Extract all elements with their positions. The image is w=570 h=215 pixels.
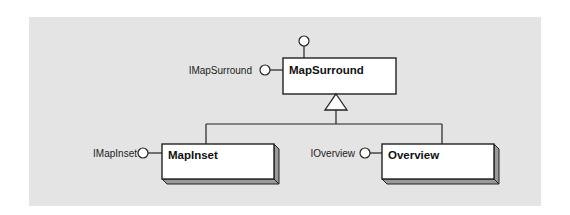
overview-box-bottom-shadow (382, 179, 499, 184)
imapinset-interface-icon (138, 148, 148, 158)
mapinset-box-bottom-shadow (162, 179, 279, 184)
imapsurround-label: IMapSurround (189, 65, 252, 76)
overview-box-side-shadow (494, 144, 499, 184)
mapinset-box-side-shadow (274, 144, 279, 184)
mapsurround-label: MapSurround (289, 64, 364, 76)
overview-label: Overview (388, 149, 439, 161)
ioverview-interface-icon (360, 148, 370, 158)
ioverview-label: IOverview (311, 148, 356, 159)
mapinset-label: MapInset (168, 149, 218, 161)
imapinset-label: IMapInset (93, 148, 137, 159)
class-diagram: IMapSurround MapSurround IMapInset MapIn… (0, 0, 570, 215)
imapsurround-interface-icon (260, 65, 270, 75)
mapsurround-top-interface-icon (299, 36, 309, 46)
